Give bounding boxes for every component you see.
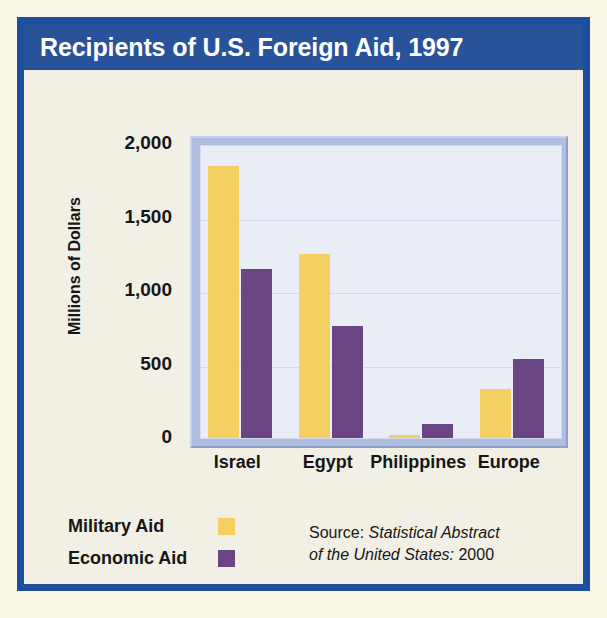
bar-israel-military xyxy=(208,166,239,438)
military-aid-swatch xyxy=(218,518,235,535)
source-year: 2000 xyxy=(454,546,494,563)
legend-label: Economic Aid xyxy=(68,548,218,569)
x-axis-label-israel: Israel xyxy=(214,452,261,473)
title-banner: Recipients of U.S. Foreign Aid, 1997 xyxy=(24,24,583,70)
legend-item-military-aid: Military Aid xyxy=(68,510,235,542)
chart-legend: Military AidEconomic Aid xyxy=(68,510,235,574)
bar-philippines-military xyxy=(389,435,420,438)
bar-egypt-military xyxy=(299,254,330,438)
plot-frame xyxy=(190,136,568,448)
source-title-line2: of the United States: xyxy=(309,546,454,563)
source-prefix: Source: xyxy=(309,524,369,541)
x-axis: IsraelEgyptPhilippinesEurope xyxy=(190,452,568,482)
y-axis-tick-label: 1,000 xyxy=(124,279,172,301)
bar-israel-economic xyxy=(241,269,272,438)
y-axis-title: Millions of Dollars xyxy=(66,197,84,335)
chart-region: Millions of Dollars 05001,0001,5002,000 … xyxy=(24,70,583,584)
source-title-line1: Statistical Abstract xyxy=(369,524,500,541)
bar-egypt-economic xyxy=(332,326,363,438)
bar-europe-military xyxy=(480,389,511,438)
bar-philippines-economic xyxy=(422,424,453,438)
legend-item-economic-aid: Economic Aid xyxy=(68,542,235,574)
y-axis-tick-label: 1,500 xyxy=(124,206,172,228)
x-axis-label-philippines: Philippines xyxy=(370,452,466,473)
x-axis-label-europe: Europe xyxy=(478,452,540,473)
legend-label: Military Aid xyxy=(68,516,218,537)
y-axis-tick-label: 500 xyxy=(140,353,172,375)
y-axis-tick-label: 0 xyxy=(161,426,172,448)
y-axis: Millions of Dollars 05001,0001,5002,000 xyxy=(24,130,184,455)
plot-area xyxy=(200,145,562,439)
bars-layer xyxy=(201,146,561,438)
page-title: Recipients of U.S. Foreign Aid, 1997 xyxy=(40,33,463,62)
economic-aid-swatch xyxy=(218,550,235,567)
x-axis-label-egypt: Egypt xyxy=(303,452,353,473)
y-axis-tick-label: 2,000 xyxy=(124,132,172,154)
bar-europe-economic xyxy=(513,359,544,438)
source-note: Source: Statistical Abstract of the Unit… xyxy=(309,522,559,565)
chart-card: Recipients of U.S. Foreign Aid, 1997 Mil… xyxy=(17,17,590,591)
